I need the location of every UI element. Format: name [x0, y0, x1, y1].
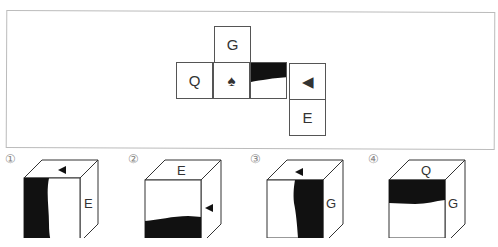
option-3-number: ③ — [250, 152, 261, 166]
option-3-cube[interactable]: G — [265, 158, 349, 238]
option-4-number: ④ — [368, 152, 379, 166]
option-2-cube[interactable]: E — [143, 158, 227, 238]
net-face-right: ◀ — [289, 63, 326, 100]
net-face-center: ♠ — [213, 62, 250, 99]
option-1-number: ① — [5, 152, 16, 166]
option-2-number: ② — [128, 152, 139, 166]
net-face-top: G — [214, 26, 251, 63]
svg-text:E: E — [84, 196, 93, 211]
shade-pattern-icon — [251, 63, 287, 99]
net-face-shaded — [250, 62, 287, 99]
svg-text:G: G — [448, 196, 458, 211]
svg-text:Q: Q — [421, 163, 431, 178]
option-1-cube[interactable]: E — [20, 158, 104, 238]
svg-text:G: G — [326, 196, 336, 211]
svg-text:E: E — [177, 163, 186, 178]
option-4-cube[interactable]: Q G — [387, 158, 471, 238]
net-face-bottom: E — [289, 99, 326, 136]
net-face-left: Q — [176, 62, 213, 99]
